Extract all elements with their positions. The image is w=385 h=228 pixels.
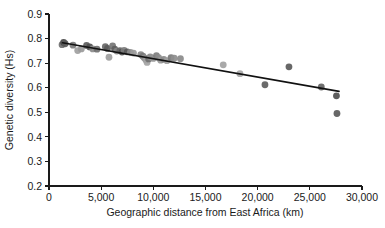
data-point <box>106 54 113 61</box>
data-point <box>177 55 184 62</box>
data-point <box>171 55 178 62</box>
y-tick-label: 0.8 <box>27 32 42 44</box>
x-tick-label: 25,000 <box>294 191 326 203</box>
y-tick-label: 0.5 <box>27 106 42 118</box>
data-point <box>262 81 269 88</box>
x-tick-label: 20,000 <box>242 191 274 203</box>
y-axis-label: Genetic diversity (Hs) <box>3 50 15 150</box>
x-axis-label: Geographic distance from East Africa (km… <box>106 206 303 218</box>
data-point <box>333 92 340 99</box>
scatter-plot-figure: 0.20.30.40.50.60.70.80.9 05,00010,00015,… <box>0 0 385 228</box>
x-tick-label: 10,000 <box>137 191 169 203</box>
y-tick-label: 0.9 <box>27 8 42 20</box>
data-point <box>220 61 227 68</box>
data-point <box>334 110 341 117</box>
data-point <box>286 63 293 70</box>
x-tick-label: 0 <box>46 191 52 203</box>
x-tick-label: 15,000 <box>189 191 221 203</box>
y-tick-label: 0.4 <box>27 131 42 143</box>
x-tick-label: 5,000 <box>88 191 114 203</box>
y-tick-label: 0.3 <box>27 155 42 167</box>
x-tick-label: 30,000 <box>346 191 378 203</box>
genetic-diversity-vs-distance-chart: 0.20.30.40.50.60.70.80.9 05,00010,00015,… <box>0 0 385 228</box>
y-tick-label: 0.6 <box>27 81 42 93</box>
y-tick-label: 0.2 <box>27 180 42 192</box>
y-tick-label: 0.7 <box>27 57 42 69</box>
